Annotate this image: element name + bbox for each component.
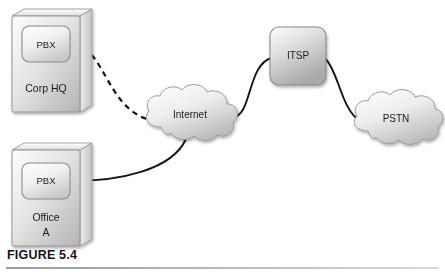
corp-hq-site-label: Corp HQ <box>25 82 66 94</box>
caption-divider <box>6 267 439 269</box>
node-corp-hq[interactable]: PBX Corp HQ <box>12 9 92 112</box>
itsp-label: ITSP <box>287 50 310 61</box>
node-pstn[interactable]: PSTN <box>354 90 443 145</box>
office-a-site-label-line2: A <box>42 226 49 238</box>
corp-hq-box-side <box>80 9 92 112</box>
node-office-a[interactable]: PBX Office A <box>12 143 92 246</box>
corp-hq-pbx-label: PBX <box>36 39 56 50</box>
node-itsp[interactable]: ITSP <box>270 27 326 85</box>
office-a-box-top <box>12 143 92 150</box>
office-a-pbx-label: PBX <box>36 175 56 186</box>
network-diagram: PBX Corp HQ PBX Office A Internet ITSP P… <box>0 0 445 272</box>
link-internet-to-itsp <box>233 58 271 117</box>
figure-container: PBX Corp HQ PBX Office A Internet ITSP P… <box>0 0 445 272</box>
figure-caption-text: FIGURE 5.4 <box>7 248 77 262</box>
node-internet[interactable]: Internet <box>146 85 237 141</box>
office-a-site-label-line1: Office <box>32 211 59 223</box>
figure-caption-block: FIGURE 5.4 <box>0 248 445 272</box>
pstn-cloud-label: PSTN <box>383 113 410 124</box>
internet-cloud-label: Internet <box>173 109 207 120</box>
office-a-box-side <box>80 143 92 246</box>
corp-hq-box-top <box>12 9 92 16</box>
